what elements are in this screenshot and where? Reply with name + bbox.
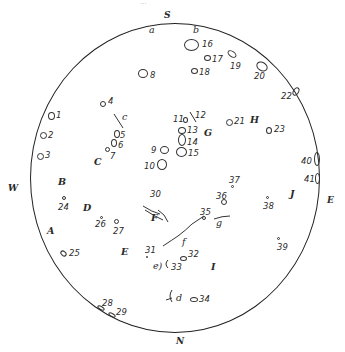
spot-16 [184,39,199,51]
spot-10 [157,159,167,170]
spot-41 [315,173,320,184]
spot-32 [180,256,187,261]
spot-37 [231,185,234,188]
spot-27 [114,219,119,224]
spot-label: 6 [118,141,123,150]
spot-label: 2 [48,131,53,140]
spot-8 [138,69,148,78]
spot-34 [190,297,198,302]
spot-label: 41 [304,175,315,184]
spot-label: 21 [234,117,245,126]
spot-label: 16 [202,40,213,49]
spot-label: 22 [281,92,292,101]
spot-label: 7 [110,152,115,161]
spot-label: 31 [145,246,156,255]
spot-3 [37,153,44,160]
spot-label: 24 [58,203,69,212]
spot-39 [277,237,280,240]
spot-label: 15 [188,149,199,158]
spot-label: 27 [113,227,124,236]
spot-2 [40,132,47,139]
spot-38 [266,196,269,199]
spot-17 [204,55,211,61]
spot-21 [226,119,233,126]
spot-1 [48,112,55,120]
spot-15 [176,147,187,157]
spot-4 [100,101,106,107]
spot-23 [266,127,272,134]
filament-lines [0,0,345,352]
spot-label: 20 [254,72,265,81]
spot-label: 38 [263,202,274,211]
spot-label: 1 [56,111,61,120]
spot-label: 25 [69,249,80,258]
spot-label: 32 [188,250,199,259]
spot-label: 10 [144,162,155,171]
spot-label: 17 [212,55,223,64]
spot-label: 35 [200,208,211,217]
spot-13 [178,127,186,134]
spot-label: 34 [199,295,210,304]
spot-6 [111,139,117,147]
spot-label: 13 [187,126,198,135]
spot-label: 14 [187,138,198,147]
spot-31 [146,256,148,258]
spot-label: 12 [195,111,206,120]
spot-label: 28 [102,299,113,308]
spot-label: 9 [151,146,156,155]
spot-18 [191,68,198,74]
spot-label: 8 [150,71,155,80]
spot-label: 30 [150,190,161,199]
spot-label: 33 [171,263,182,272]
spot-9 [160,146,169,154]
spot-24 [62,196,66,200]
spot-label: 5 [120,131,125,140]
spot-label: 18 [199,68,210,77]
spot-label: 19 [230,62,241,71]
spot-label: 39 [277,243,288,252]
spot-label: 29 [116,308,127,317]
spot-label: 4 [108,97,113,106]
spot-40 [314,152,320,166]
spot-label: 3 [45,151,50,160]
spot-label: 26 [95,220,106,229]
spot-label: 11 [173,115,184,124]
spot-14 [178,134,186,146]
spot-label: 40 [301,157,312,166]
spot-label: 36 [216,192,227,201]
spot-label: 37 [229,176,240,185]
spot-label: 23 [274,125,285,134]
